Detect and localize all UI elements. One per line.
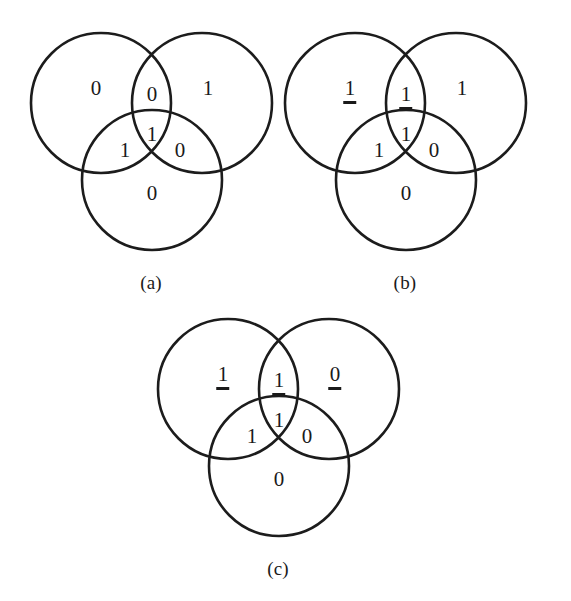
region-value-right-only-a: 1 xyxy=(203,78,214,100)
region-value-left-only-c: 1 xyxy=(218,364,229,386)
venn-panel-c: 1101100(c) xyxy=(133,288,423,588)
region-value-left-bottom-overlap-b: 1 xyxy=(374,140,385,162)
venn-panel-b: 1111100(b) xyxy=(260,2,550,302)
region-digit: 0 xyxy=(401,183,412,205)
region-value-left-bottom-overlap-c: 1 xyxy=(247,426,258,448)
region-value-center-all-three-c: 1 xyxy=(274,410,285,432)
region-digit: 0 xyxy=(274,469,285,491)
region-value-right-bottom-overlap-c: 0 xyxy=(302,426,313,448)
region-digit: 1 xyxy=(218,364,229,386)
region-digit: 1 xyxy=(147,124,158,146)
region-digit: 1 xyxy=(457,78,468,100)
region-digit: 0 xyxy=(147,84,158,106)
region-digit: 0 xyxy=(330,364,341,386)
region-digit: 1 xyxy=(274,370,285,392)
region-digit: 0 xyxy=(429,140,440,162)
region-digit: 1 xyxy=(345,78,356,100)
region-digit: 1 xyxy=(247,426,258,448)
region-digit: 1 xyxy=(401,124,412,146)
region-digit: 1 xyxy=(401,84,412,106)
region-value-left-bottom-overlap-a: 1 xyxy=(120,140,131,162)
region-digit: 1 xyxy=(203,78,214,100)
region-value-left-right-overlap-a: 0 xyxy=(147,84,158,106)
region-digit: 0 xyxy=(302,426,313,448)
region-value-center-all-three-b: 1 xyxy=(401,124,412,146)
venn-panel-a: 0011100(a) xyxy=(6,2,296,302)
region-digit: 1 xyxy=(120,140,131,162)
region-value-center-all-three-a: 1 xyxy=(147,124,158,146)
region-value-right-bottom-overlap-a: 0 xyxy=(175,140,186,162)
region-value-right-only-b: 1 xyxy=(457,78,468,100)
region-value-right-bottom-overlap-b: 0 xyxy=(429,140,440,162)
region-digit: 0 xyxy=(147,183,158,205)
region-value-left-only-b: 1 xyxy=(345,78,356,100)
region-value-left-only-a: 0 xyxy=(91,78,102,100)
region-value-right-only-c: 0 xyxy=(330,364,341,386)
region-digit: 1 xyxy=(374,140,385,162)
region-value-bottom-only-c: 0 xyxy=(274,469,285,491)
venn-figure-root: 0011100(a)1111100(b)1101100(c) xyxy=(0,0,571,601)
region-digit: 0 xyxy=(91,78,102,100)
region-digit: 1 xyxy=(274,410,285,432)
region-value-bottom-only-b: 0 xyxy=(401,183,412,205)
region-value-bottom-only-a: 0 xyxy=(147,183,158,205)
region-digit: 0 xyxy=(175,140,186,162)
region-value-left-right-overlap-b: 1 xyxy=(401,84,412,106)
panel-caption-c: (c) xyxy=(267,558,289,580)
region-value-left-right-overlap-c: 1 xyxy=(274,370,285,392)
